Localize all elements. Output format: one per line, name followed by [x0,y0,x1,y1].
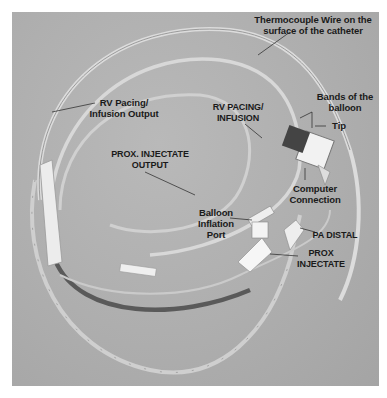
label-tip: Tip [327,120,351,131]
label-prox-injectate: PROX INJECTATE [290,248,352,270]
label-prox-injectate-output: PROX. INJECTATE OUTPUT [100,149,200,171]
catheter-hub-label [40,160,62,266]
prox-injectate-hub [238,238,272,272]
label-rv-pacing-infusion: RV PACING/ INFUSION [205,102,271,124]
catheter-distal-body [32,180,300,372]
label-bands-of-balloon: Bands of the balloon [310,91,380,113]
label-rv-pacing-infusion-output: RV Pacing/ Infusion Output [84,97,164,119]
label-balloon-inflation-port: Balloon Inflation Port [195,207,237,240]
label-computer-connection: Computer Connection [285,183,345,205]
label-pa-distal: PA DISTAL [305,230,365,241]
label-thermocouple-wire: Thermocouple Wire on the surface of the … [249,14,377,36]
catheter-sleeve [120,264,157,277]
